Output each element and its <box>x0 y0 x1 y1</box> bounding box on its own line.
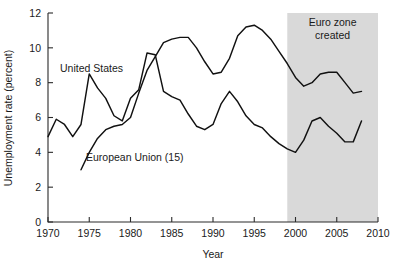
x-axis-title: Year <box>202 248 224 260</box>
x-axis-tick-labels: 197019751980198519901995200020052010 <box>36 227 390 239</box>
y-tick-label: 8 <box>35 76 41 88</box>
euro-zone-annotation-line: Euro zone <box>309 16 357 28</box>
x-tick-label: 1990 <box>201 227 225 239</box>
euro-zone-shaded-region <box>287 13 378 222</box>
x-tick-label: 1985 <box>160 227 184 239</box>
y-tick-label: 12 <box>29 7 41 19</box>
x-tick-label: 1975 <box>78 227 102 239</box>
y-tick-label: 4 <box>35 146 41 158</box>
x-tick-label: 2005 <box>325 227 349 239</box>
x-tick-label: 2010 <box>366 227 390 239</box>
unemployment-rate-chart: Euro zonecreated 19701975198019851990199… <box>0 0 393 265</box>
x-tick-label: 1980 <box>119 227 143 239</box>
y-tick-label: 2 <box>35 181 41 193</box>
series-inline-label: European Union (15) <box>86 151 183 163</box>
x-tick-label: 2000 <box>284 227 308 239</box>
x-tick-label: 1970 <box>36 227 60 239</box>
x-tick-label: 1995 <box>243 227 267 239</box>
series-inline-labels: United StatesEuropean Union (15) <box>60 62 183 163</box>
series-inline-label: United States <box>60 62 123 74</box>
y-tick-label: 10 <box>29 42 41 54</box>
euro-zone-annotation-line: created <box>315 29 350 41</box>
chart-canvas: Euro zonecreated 19701975198019851990199… <box>0 0 393 265</box>
y-tick-label: 6 <box>35 111 41 123</box>
y-axis-tick-labels: 024681012 <box>29 7 41 228</box>
euro-zone-band-rect <box>287 13 378 222</box>
y-axis-title: Unemployment rate (percent) <box>2 50 14 187</box>
euro-zone-annotation: Euro zonecreated <box>309 16 357 41</box>
y-tick-label: 0 <box>35 216 41 228</box>
